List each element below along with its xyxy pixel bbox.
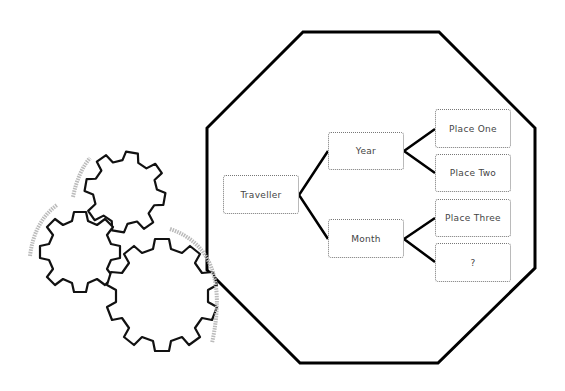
node-unknown[interactable]: ? <box>435 243 511 282</box>
node-traveller[interactable]: Traveller <box>223 175 299 214</box>
gears-icon <box>40 146 217 351</box>
node-place-two[interactable]: Place Two <box>435 154 511 192</box>
node-label: ? <box>470 258 475 268</box>
node-place-three[interactable]: Place Three <box>435 199 511 237</box>
node-label: Month <box>351 234 381 244</box>
node-year[interactable]: Year <box>328 132 404 170</box>
node-month[interactable]: Month <box>328 219 404 258</box>
node-label: Place Two <box>450 168 496 178</box>
node-place-one[interactable]: Place One <box>435 109 511 148</box>
node-label: Year <box>356 146 376 156</box>
node-label: Place Three <box>445 213 501 223</box>
node-label: Place One <box>449 124 497 134</box>
node-label: Traveller <box>240 190 281 200</box>
